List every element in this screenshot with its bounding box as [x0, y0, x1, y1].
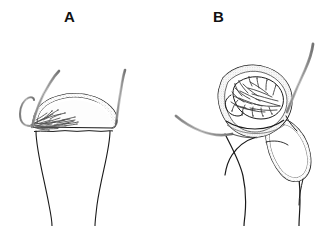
figure-root: A B — [0, 0, 328, 226]
panel-label-a: A — [64, 9, 75, 24]
panel-label-b: B — [213, 9, 224, 24]
anatomy-illustration — [0, 0, 328, 226]
